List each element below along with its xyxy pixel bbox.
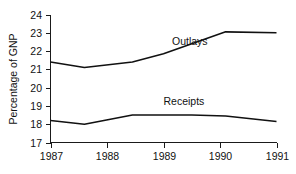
y-tick-label: 21 (30, 63, 42, 75)
series-line-receipts (51, 115, 277, 124)
x-tick-label: 1988 (96, 150, 120, 162)
y-tick-label: 18 (30, 118, 42, 130)
x-axis-ticks: 19871988198919901991 (40, 143, 290, 163)
series-line-outlays (51, 32, 277, 68)
x-tick-label: 1990 (209, 150, 233, 162)
y-tick-label: 22 (30, 45, 42, 57)
y-tick-label: 24 (30, 9, 42, 21)
y-axis-title: Percentage of GNP (7, 33, 19, 124)
x-tick-label: 1991 (266, 150, 290, 162)
y-tick-label: 20 (30, 82, 42, 94)
series-label-group: OutlaysReceipts (164, 35, 208, 107)
series-label-outlays: Outlays (172, 35, 208, 47)
chart-container: Percentage of GNP 1718192021222324 19871… (0, 0, 296, 174)
y-tick-label: 23 (30, 27, 42, 39)
y-tick-label: 17 (30, 137, 42, 149)
x-tick-label: 1987 (40, 150, 64, 162)
y-axis-ticks: 1718192021222324 (30, 9, 50, 149)
y-tick-label: 19 (30, 100, 42, 112)
y-axis-title-group: Percentage of GNP (7, 33, 19, 124)
series-label-receipts: Receipts (164, 95, 205, 107)
line-chart: Percentage of GNP 1718192021222324 19871… (0, 0, 296, 174)
x-tick-label: 1989 (153, 150, 177, 162)
data-series-group (51, 32, 277, 124)
